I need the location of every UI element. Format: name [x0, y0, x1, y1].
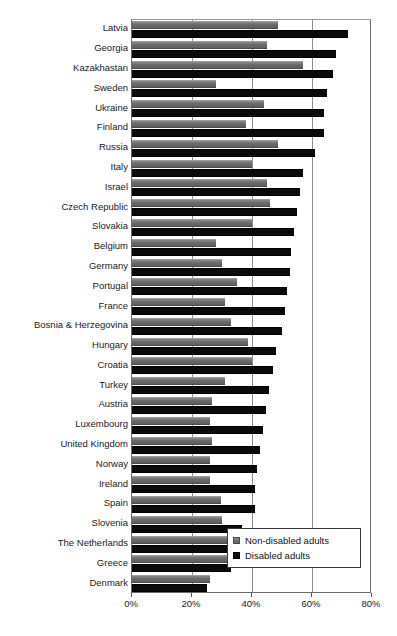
bar-group: [132, 258, 370, 278]
bar-group: [132, 376, 370, 396]
bar-non-disabled: [132, 536, 233, 544]
bar-non-disabled: [132, 555, 240, 563]
bar-group: [132, 317, 370, 337]
category-label: Sweden: [16, 83, 128, 93]
category-label: Croatia: [16, 360, 128, 370]
bar-disabled: [132, 307, 285, 315]
bar-disabled: [132, 564, 231, 572]
bar-disabled: [132, 446, 260, 454]
category-label: Ireland: [16, 479, 128, 489]
bar-non-disabled: [132, 338, 248, 346]
bar-non-disabled: [132, 397, 212, 405]
bar-group: [132, 20, 370, 40]
category-label: France: [16, 301, 128, 311]
bar-non-disabled: [132, 318, 231, 326]
bar-group: [132, 119, 370, 139]
x-tick: [311, 593, 312, 597]
category-label: Slovakia: [16, 221, 128, 231]
legend-label: Non-disabled adults: [245, 535, 329, 546]
bar-disabled: [132, 386, 269, 394]
bar-non-disabled: [132, 516, 222, 524]
bar-disabled: [132, 366, 273, 374]
bar-group: [132, 356, 370, 376]
bar-group: [132, 139, 370, 159]
bar-disabled: [132, 30, 348, 38]
bar-group: [132, 475, 370, 495]
bar-disabled: [132, 426, 263, 434]
bar-disabled: [132, 327, 282, 335]
bar-disabled: [132, 268, 290, 276]
bar-group: [132, 198, 370, 218]
bar-disabled: [132, 169, 303, 177]
bar-disabled: [132, 505, 255, 513]
bar-disabled: [132, 525, 242, 533]
bar-group: [132, 436, 370, 456]
bar-non-disabled: [132, 61, 303, 69]
bar-group: [132, 396, 370, 416]
bar-non-disabled: [132, 278, 237, 286]
bar-disabled: [132, 228, 294, 236]
legend-item: Non-disabled adults: [233, 533, 355, 548]
bar-group: [132, 297, 370, 317]
bar-disabled: [132, 188, 300, 196]
category-label: Italy: [16, 162, 128, 172]
x-tick-label: 80%: [361, 598, 380, 609]
bar-group: [132, 574, 370, 594]
bar-disabled: [132, 584, 207, 592]
category-label: Belgium: [16, 241, 128, 251]
bar-group: [132, 218, 370, 238]
x-tick: [371, 593, 372, 597]
legend-label: Disabled adults: [245, 550, 310, 561]
bar-disabled: [132, 149, 315, 157]
bar-non-disabled: [132, 239, 216, 247]
bar-chart: LatviaGeorgiaKazakhastanSwedenUkraineFin…: [0, 0, 397, 636]
bar-non-disabled: [132, 259, 222, 267]
category-label: Finland: [16, 122, 128, 132]
category-label: Norway: [16, 459, 128, 469]
bar-non-disabled: [132, 140, 278, 148]
bar-group: [132, 455, 370, 475]
bar-group: [132, 79, 370, 99]
category-label: Ukraine: [16, 103, 128, 113]
bar-non-disabled: [132, 41, 267, 49]
category-label: Bosnia & Herzegovina: [16, 320, 128, 330]
category-label: United Kingdom: [16, 439, 128, 449]
bar-disabled: [132, 485, 255, 493]
black-swatch-icon: [233, 552, 240, 559]
bar-non-disabled: [132, 80, 216, 88]
bar-group: [132, 337, 370, 357]
bar-disabled: [132, 248, 291, 256]
bar-groups: [132, 20, 370, 592]
bar-group: [132, 277, 370, 297]
bar-disabled: [132, 406, 266, 414]
category-label: Austria: [16, 399, 128, 409]
bar-non-disabled: [132, 417, 210, 425]
category-label: Russia: [16, 142, 128, 152]
category-label: Latvia: [16, 23, 128, 33]
bar-non-disabled: [132, 179, 267, 187]
x-tick-label: 40%: [241, 598, 260, 609]
category-label: The Netherlands: [16, 538, 128, 548]
category-label: Georgia: [16, 43, 128, 53]
legend-item: Disabled adults: [233, 548, 355, 563]
bar-disabled: [132, 70, 333, 78]
category-label: Greece: [16, 558, 128, 568]
bar-non-disabled: [132, 377, 225, 385]
bar-group: [132, 495, 370, 515]
value-axis: 0%20%40%60%80%: [131, 593, 371, 613]
bar-disabled: [132, 129, 324, 137]
bar-disabled: [132, 89, 327, 97]
bar-group: [132, 60, 370, 80]
plot-area: [131, 19, 371, 593]
bar-non-disabled: [132, 100, 264, 108]
bar-disabled: [132, 287, 287, 295]
category-label: Turkey: [16, 380, 128, 390]
category-label: Hungary: [16, 340, 128, 350]
category-label: Israel: [16, 182, 128, 192]
bar-group: [132, 416, 370, 436]
x-tick: [251, 593, 252, 597]
x-tick: [131, 593, 132, 597]
category-label: Czech Republic: [16, 202, 128, 212]
x-tick: [191, 593, 192, 597]
bar-group: [132, 238, 370, 258]
